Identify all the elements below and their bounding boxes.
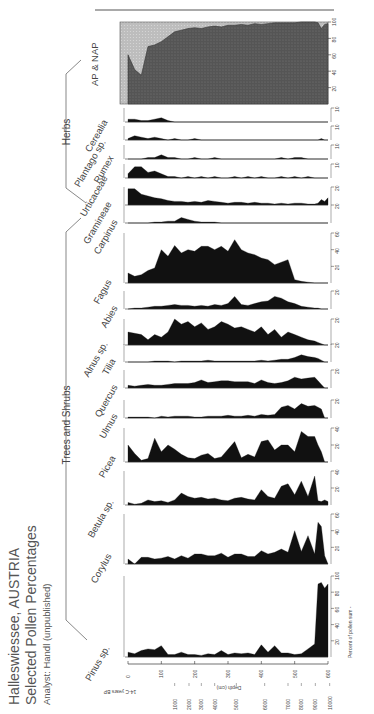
panel-pinus-sp: 20406080100Pinus sp. <box>83 571 340 682</box>
percent-axis-label: Percent of pollen sum - <box>347 606 353 658</box>
svg-text:40: 40 <box>334 529 340 535</box>
age-tick: 1000 <box>172 699 178 710</box>
age-tick: 5000 <box>233 699 239 710</box>
taxon-label: Tilia <box>100 356 118 377</box>
svg-text:40: 40 <box>331 69 337 75</box>
depth-tick: 400 <box>258 669 264 678</box>
taxon-label: Pinus sp. <box>83 644 112 683</box>
taxon-label: Betula sp. <box>85 498 116 540</box>
svg-text:60: 60 <box>331 53 337 59</box>
taxon-label: Quercus <box>92 382 120 419</box>
panel-fagus: 204060Fagus <box>91 231 340 306</box>
age-tick: 10000 <box>327 696 333 710</box>
svg-text:40: 40 <box>334 623 340 629</box>
age-tick: 7000 <box>285 699 291 710</box>
svg-text:20: 20 <box>334 398 340 404</box>
panel-cerealia: 10Cerealia <box>83 106 340 153</box>
svg-text:20: 20 <box>334 317 340 323</box>
pollen-diagram: 20406080100Pinus sp.204060Corylus2040Bet… <box>0 0 374 714</box>
age-tick: 4000 <box>212 699 218 710</box>
panel-tilia: 20Tilia <box>100 342 340 377</box>
depth-tick: 600 <box>325 669 331 678</box>
depth-tick: 100 <box>158 669 164 678</box>
depth-tick: 500 <box>292 669 298 678</box>
group-label-herbs: Herbs <box>61 119 72 146</box>
depth-tick: 200 <box>192 669 198 678</box>
taxon-label: AP & NAP <box>89 42 100 86</box>
svg-text:20: 20 <box>334 342 340 348</box>
taxon-label: Picea <box>96 453 118 480</box>
svg-text:60: 60 <box>334 512 340 518</box>
svg-text:100: 100 <box>334 571 340 580</box>
panel-carpinus: 20Carpinus <box>91 203 340 256</box>
svg-text:80: 80 <box>331 37 337 43</box>
svg-text:40: 40 <box>334 469 340 475</box>
svg-text:20: 20 <box>334 368 340 374</box>
svg-text:20: 20 <box>334 546 340 552</box>
svg-text:10: 10 <box>334 124 340 130</box>
svg-text:20: 20 <box>334 185 340 191</box>
panel-corylus: 204060Corylus <box>88 512 340 585</box>
svg-text:20: 20 <box>331 86 337 92</box>
depth-tick: 300 <box>225 669 231 678</box>
panel-picea: 2040Picea <box>96 426 340 479</box>
panel-gramineae: 20Gramineae <box>81 185 340 245</box>
taxon-label: Corylus <box>88 551 114 585</box>
depth-axis: 0100200300400500600Depth (cm)10002000300… <box>103 606 353 710</box>
svg-text:20: 20 <box>334 265 340 271</box>
svg-text:40: 40 <box>334 426 340 432</box>
svg-text:10: 10 <box>334 106 340 112</box>
age-tick: 8000 <box>298 699 304 710</box>
svg-text:10: 10 <box>334 143 340 149</box>
age-tick: 6000 <box>262 699 268 710</box>
age-axis-label: 14-C years BP <box>103 689 136 695</box>
panel-urticaceae: 10Urticaceae <box>77 162 340 218</box>
svg-text:40: 40 <box>334 248 340 254</box>
group-label-trees-shrubs: Trees and Shrubs <box>61 385 72 464</box>
panel-plantago-sp: 10Plantago sp. <box>72 124 340 189</box>
svg-text:20: 20 <box>334 203 340 209</box>
svg-text:60: 60 <box>334 607 340 613</box>
svg-text:100: 100 <box>331 17 337 26</box>
taxon-label: Abies <box>98 303 120 329</box>
taxon-panels: 20406080100Pinus sp.204060Corylus2040Bet… <box>72 10 340 683</box>
panel-betula-sp: 2040Betula sp. <box>85 469 340 539</box>
age-tick: 3000 <box>198 699 204 710</box>
depth-tick: 0 <box>125 675 131 678</box>
svg-text:20: 20 <box>334 486 340 492</box>
panel-rumex: 10Rumex <box>91 143 340 185</box>
panel-ap-nap: AP & NAP20406080100 <box>89 10 337 104</box>
svg-text:20: 20 <box>334 443 340 449</box>
svg-text:80: 80 <box>334 590 340 596</box>
age-tick: 9000 <box>312 699 318 710</box>
age-tick: 2000 <box>186 699 192 710</box>
depth-axis-label: Depth (cm) <box>216 685 241 691</box>
svg-text:20: 20 <box>334 289 340 295</box>
svg-text:20: 20 <box>334 639 340 645</box>
svg-text:10: 10 <box>334 162 340 168</box>
svg-text:60: 60 <box>334 231 340 237</box>
panel-alnus-sp: 20Alnus sp. <box>81 317 340 379</box>
taxon-label: Fagus <box>91 277 114 306</box>
